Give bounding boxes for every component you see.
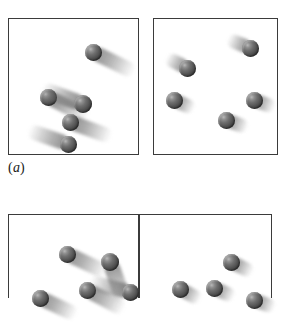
particle-sphere bbox=[218, 112, 235, 129]
particle-sphere bbox=[122, 284, 139, 301]
caption-a: (a) bbox=[8, 160, 25, 176]
caption-close-paren: ) bbox=[20, 160, 25, 175]
particle-sphere bbox=[101, 253, 119, 271]
particle-sphere bbox=[246, 92, 263, 109]
particle-sphere bbox=[32, 290, 49, 307]
particle-sphere bbox=[60, 136, 77, 153]
particle-sphere bbox=[223, 254, 240, 271]
panel-a-right bbox=[153, 18, 278, 155]
particle-sphere bbox=[172, 281, 189, 298]
caption-letter: a bbox=[13, 160, 20, 175]
divider-row-b bbox=[138, 214, 140, 298]
particle-sphere bbox=[179, 60, 196, 77]
particle-sphere bbox=[246, 292, 263, 309]
particle-sphere bbox=[166, 92, 183, 109]
panel-b-right bbox=[138, 214, 272, 298]
particle-sphere bbox=[206, 280, 223, 297]
particle-sphere bbox=[59, 246, 76, 263]
particle-sphere bbox=[74, 95, 92, 113]
particle-sphere bbox=[85, 44, 102, 61]
particle-sphere bbox=[242, 40, 259, 57]
particle-sphere bbox=[62, 114, 79, 131]
